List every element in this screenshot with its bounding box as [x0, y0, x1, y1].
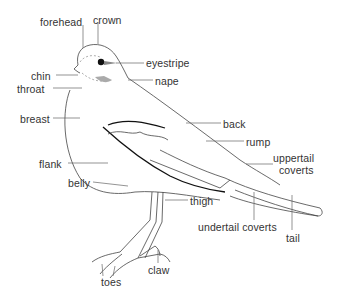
label-flank: flank — [39, 159, 62, 170]
label-undertail-coverts: undertail coverts — [198, 222, 277, 233]
label-back: back — [223, 119, 246, 130]
bird-anatomy-diagram: forehead crown eyestripe nape chin throa… — [0, 0, 342, 303]
label-rump: rump — [246, 137, 270, 148]
label-belly: belly — [68, 178, 90, 189]
label-thigh: thigh — [190, 196, 213, 207]
label-chin: chin — [31, 71, 51, 82]
label-toes: toes — [101, 277, 121, 288]
label-uppertail-coverts-line1: uppertail — [273, 153, 314, 164]
label-tail: tail — [286, 233, 300, 244]
label-crown: crown — [93, 15, 122, 26]
label-claw: claw — [148, 265, 169, 276]
label-uppertail-coverts-line2: coverts — [279, 165, 314, 176]
label-throat: throat — [17, 84, 44, 95]
label-eyestripe: eyestripe — [146, 58, 190, 69]
label-nape: nape — [155, 76, 179, 87]
label-forehead: forehead — [40, 17, 82, 28]
label-breast: breast — [20, 114, 50, 125]
